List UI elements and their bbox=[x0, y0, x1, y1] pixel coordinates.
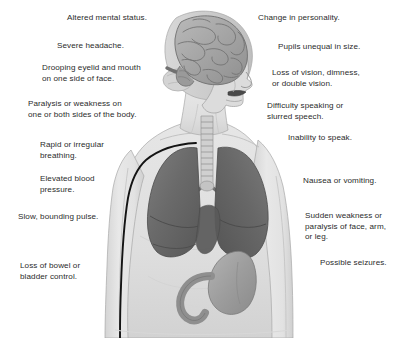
label-severe-headache: Severe headache. bbox=[57, 41, 124, 52]
label-loss-of-vision-dimness: Loss of vision, dimness, or double visio… bbox=[272, 68, 360, 89]
trachea bbox=[186, 116, 228, 204]
label-altered-mental-status: Altered mental status. bbox=[67, 13, 147, 24]
label-loss-of-bowel-or-bladder-control: Loss of bowel or bladder control. bbox=[20, 261, 80, 282]
label-elevated-blood-pressure: Elevated blood pressure. bbox=[40, 174, 95, 195]
lungs-group bbox=[147, 147, 268, 258]
label-change-in-personality: Change in personality. bbox=[258, 13, 340, 24]
label-difficulty-speaking: Difficulty speaking or slurred speech. bbox=[267, 101, 343, 122]
neck-group bbox=[180, 92, 228, 135]
label-drooping-eyelid-and-mouth: Drooping eyelid and mouth on one side of… bbox=[42, 63, 141, 84]
aorta-line bbox=[120, 143, 196, 338]
symptoms-figure: Altered mental status. Severe headache. … bbox=[0, 0, 405, 338]
label-inability-to-speak: Inability to speak. bbox=[288, 133, 352, 144]
label-paralysis-or-weakness: Paralysis or weakness on one or both sid… bbox=[28, 99, 136, 120]
label-slow-bounding-pulse: Slow, bounding pulse. bbox=[18, 212, 98, 223]
head-profile bbox=[163, 11, 252, 113]
label-possible-seizures: Possible seizures. bbox=[320, 258, 387, 269]
label-sudden-weakness-or-paralysis: Sudden weakness or paralysis of face, ar… bbox=[305, 211, 386, 243]
label-rapid-or-irregular-breathing: Rapid or irregular breathing. bbox=[40, 140, 104, 161]
brain bbox=[175, 16, 248, 86]
stomach bbox=[180, 251, 256, 320]
torso-group bbox=[105, 120, 293, 338]
label-nausea-or-vomiting: Nausea or vomiting. bbox=[303, 176, 377, 187]
label-pupils-unequal-in-size: Pupils unequal in size. bbox=[278, 42, 360, 53]
